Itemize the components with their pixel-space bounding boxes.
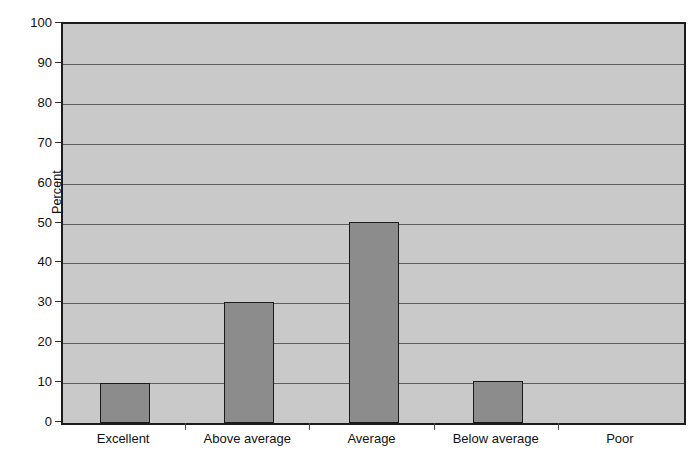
y-tick-label-60: 60 [24,175,52,188]
y-tick-label-90: 90 [24,55,52,68]
y-tick-label-80: 80 [24,95,52,108]
bar-average [349,222,399,423]
x-label-below-average: Below average [453,429,539,449]
x-label-average: Average [347,429,395,449]
y-tick-label-40: 40 [24,255,52,268]
x-label-above-average: Above average [204,429,291,449]
y-tick-label-20: 20 [24,335,52,348]
bars-layer [63,24,684,423]
bar-below-average [473,381,523,423]
bar-chart: Percent 0102030405060708090100 Excellent… [0,0,698,455]
plot-area [61,22,686,425]
y-tick-label-10: 10 [24,375,52,388]
y-tick-label-100: 100 [24,16,52,29]
y-tick-label-70: 70 [24,135,52,148]
y-tick-label-30: 30 [24,295,52,308]
y-tick-label-0: 0 [24,415,52,428]
bar-above-average [224,302,274,423]
x-label-poor: Poor [606,429,633,449]
y-tick-label-50: 50 [24,215,52,228]
y-axis-tick-labels: 0102030405060708090100 [22,0,52,455]
x-label-excellent: Excellent [97,429,150,449]
bar-excellent [100,383,150,423]
x-axis-category-labels: ExcellentAbove averageAverageBelow avera… [61,429,682,453]
